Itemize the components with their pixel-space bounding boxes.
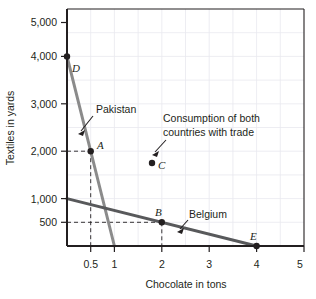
x-tick-label-1: 1: [111, 258, 117, 270]
data-point-b: [159, 219, 165, 225]
consumption-annotation-line1: Consumption of both: [163, 112, 260, 124]
chart-figure: 5,000 4,000 3,000 2,000 1,000 500 0.5 1 …: [0, 0, 316, 299]
data-point-label-e: E: [249, 230, 257, 242]
x-tick-label-5: 5: [297, 258, 303, 270]
y-tick-label-5000: 5,000: [31, 16, 57, 28]
y-tick-label-500: 500: [39, 216, 57, 228]
pakistan-annotation-label: Pakistan: [96, 103, 136, 115]
data-point-label-c: C: [158, 159, 166, 171]
x-tick-label-0-5: 0.5: [83, 258, 98, 270]
production-possibilities-chart: 5,000 4,000 3,000 2,000 1,000 500 0.5 1 …: [0, 0, 316, 299]
data-point-c: [149, 160, 155, 166]
belgium-annotation-label: Belgium: [189, 208, 227, 220]
data-point-label-d: D: [71, 62, 80, 74]
y-tick-label-3000: 3,000: [31, 98, 57, 110]
x-axis-title: Chocolate in tons: [145, 278, 226, 290]
y-tick-label-1000: 1,000: [31, 193, 57, 205]
data-point-label-b: B: [155, 206, 162, 218]
data-point-e: [253, 243, 259, 249]
y-axis-title: Textiles in yards: [4, 91, 16, 166]
y-tick-label-4000: 4,000: [31, 50, 57, 62]
x-tick-label-3: 3: [206, 258, 212, 270]
data-point-a: [88, 148, 94, 154]
x-tick-label-2: 2: [159, 258, 165, 270]
data-point-label-a: A: [96, 139, 104, 151]
x-tick-label-4: 4: [254, 258, 260, 270]
y-tick-label-2000: 2,000: [31, 145, 57, 157]
data-point-d: [64, 53, 70, 59]
consumption-annotation-line2: countries with trade: [163, 126, 254, 138]
